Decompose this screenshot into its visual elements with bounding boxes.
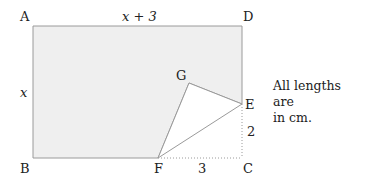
top-side-label: x + 3: [122, 10, 157, 23]
ec-length-label: 2: [247, 125, 255, 138]
vertex-d-label: D: [243, 10, 253, 23]
vertex-f-label: F: [154, 162, 163, 175]
left-side-label: x: [20, 86, 27, 99]
vertex-g-label: G: [176, 69, 186, 82]
vertex-e-label: E: [245, 98, 255, 111]
units-note-line1: All lengths are: [273, 78, 363, 110]
units-note: All lengths are in cm.: [273, 78, 363, 126]
units-note-line2: in cm.: [273, 110, 363, 126]
vertex-c-label: C: [243, 162, 253, 175]
vertex-a-label: A: [20, 10, 29, 23]
vertex-b-label: B: [20, 162, 30, 175]
fc-length-label: 3: [198, 162, 206, 175]
